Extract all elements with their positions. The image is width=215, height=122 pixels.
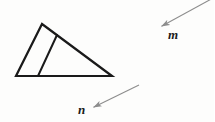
- triangle-group: [16, 24, 112, 76]
- geometry-figure: m n: [0, 0, 214, 122]
- vector-label-m: m: [168, 28, 178, 41]
- triangle-outline: [16, 24, 112, 76]
- arrow-n-shaft: [94, 85, 140, 107]
- arrow-m-group: [162, 0, 215, 26]
- vector-label-n: n: [78, 103, 85, 116]
- arrow-n-group: [94, 85, 140, 107]
- arrow-m-shaft: [162, 0, 215, 26]
- inner-segment: [38, 35, 57, 76]
- figure-canvas: [0, 0, 214, 122]
